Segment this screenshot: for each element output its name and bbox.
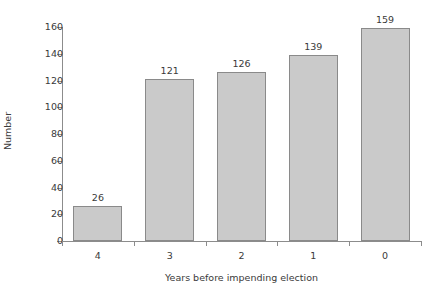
y-axis-tick-label: 80: [22, 129, 63, 139]
y-axis-tick-label: 40: [22, 183, 63, 193]
bar-chart-figure: 160140120100806040200 Number 43210 Years…: [0, 0, 433, 296]
bar-value-label: 139: [289, 41, 337, 52]
bar-value-label: 159: [361, 14, 409, 25]
plot-area: 160140120100806040200 Number 43210 Years…: [0, 0, 433, 296]
x-axis-tick: [206, 241, 207, 246]
bar-value-label: 26: [74, 192, 122, 203]
y-axis-tick-label: 140: [22, 49, 63, 59]
y-axis-tick-label: 20: [22, 209, 63, 219]
y-axis-tick-label: 120: [22, 76, 63, 86]
x-axis-category-label: 0: [365, 250, 405, 262]
bar-value-label: 126: [218, 58, 266, 69]
y-axis-tick-label-text: 40: [35, 183, 63, 193]
x-axis-category-label: 4: [78, 250, 118, 262]
y-axis-tick-label-text: 120: [35, 76, 63, 86]
y-axis-tick-label: 160: [22, 22, 63, 32]
x-axis-category-label: 3: [150, 250, 190, 262]
y-axis-tick-label-text: 0: [35, 236, 63, 246]
y-axis-tick-label: 0: [22, 236, 63, 246]
bar: [289, 55, 338, 241]
y-axis-title: Number: [2, 101, 14, 161]
bar: [145, 79, 194, 241]
y-axis-tick-label-text: 100: [35, 102, 63, 112]
x-axis-tick: [349, 241, 350, 246]
y-axis-tick-label: 100: [22, 102, 63, 112]
x-axis-tick: [277, 241, 278, 246]
x-axis-title: Years before impending election: [62, 272, 421, 284]
y-axis-tick-label-text: 60: [35, 156, 63, 166]
y-axis-tick-label-text: 80: [35, 129, 63, 139]
x-axis-category-label: 2: [222, 250, 262, 262]
bar: [217, 72, 266, 241]
bar-value-label: 121: [146, 65, 194, 76]
y-axis-tick-label-text: 160: [35, 22, 63, 32]
bar: [361, 28, 410, 241]
x-axis-line: [62, 241, 421, 242]
y-axis-tick-label-text: 20: [35, 209, 63, 219]
x-axis-tick: [421, 241, 422, 246]
y-axis-tick-label-text: 140: [35, 49, 63, 59]
y-axis-tick-label: 60: [22, 156, 63, 166]
x-axis-tick: [62, 241, 63, 246]
x-axis-tick: [134, 241, 135, 246]
bar: [73, 206, 122, 241]
x-axis-category-label: 1: [293, 250, 333, 262]
